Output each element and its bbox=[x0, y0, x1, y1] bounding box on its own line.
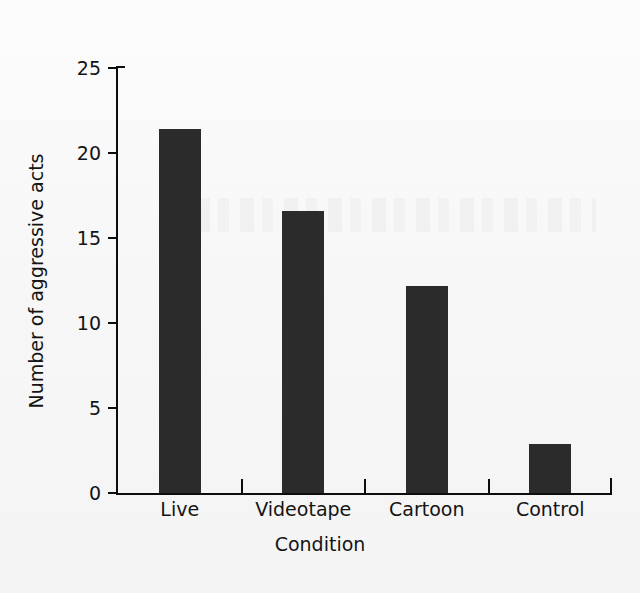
y-axis-title: Number of aggressive acts bbox=[25, 153, 47, 408]
bar bbox=[159, 129, 201, 493]
y-axis-tick-label: 25 bbox=[77, 59, 101, 78]
x-axis-category-label: Live bbox=[118, 500, 242, 519]
bar bbox=[529, 444, 571, 493]
y-axis-top-cap bbox=[116, 66, 125, 68]
y-axis-tick: 0 bbox=[108, 492, 117, 494]
bar bbox=[406, 286, 448, 493]
x-axis-category-label: Control bbox=[489, 500, 613, 519]
y-axis-tick-label: 0 bbox=[89, 484, 101, 503]
bar bbox=[282, 211, 324, 493]
y-axis-tick: 15 bbox=[108, 237, 117, 239]
x-axis-tick bbox=[364, 479, 366, 494]
x-axis-right-cap bbox=[610, 478, 612, 495]
x-axis-category-label: Cartoon bbox=[365, 500, 489, 519]
bar-chart-figure: Number of aggressive acts 0510152025 Liv… bbox=[0, 0, 640, 593]
scan-watermark-artifact bbox=[196, 198, 596, 232]
x-axis-tick bbox=[488, 479, 490, 494]
y-axis-line bbox=[116, 66, 118, 495]
y-axis-tick-label: 15 bbox=[77, 229, 101, 248]
y-axis-tick: 10 bbox=[108, 322, 117, 324]
x-axis-title: Condition bbox=[0, 533, 640, 555]
y-axis-tick: 5 bbox=[108, 407, 117, 409]
y-axis-tick: 25 bbox=[108, 67, 117, 69]
y-axis-tick-label: 10 bbox=[77, 314, 101, 333]
x-axis-tick bbox=[241, 479, 243, 494]
y-axis-tick: 20 bbox=[108, 152, 117, 154]
y-axis-tick-label: 20 bbox=[77, 144, 101, 163]
y-axis-tick-label: 5 bbox=[89, 399, 101, 418]
x-axis-category-label: Videotape bbox=[242, 500, 366, 519]
